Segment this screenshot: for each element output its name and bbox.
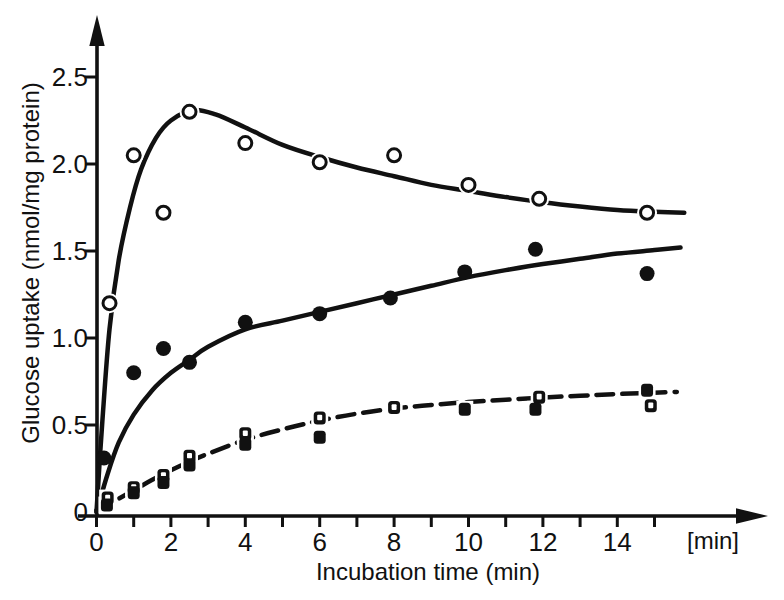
y-tick-label: 0 [74, 497, 88, 527]
open-circle-marker [641, 206, 654, 219]
filled-circle-marker [126, 365, 141, 380]
filled-square-marker [314, 431, 326, 444]
filled-square-marker [184, 459, 196, 472]
open-square-marker-center [243, 430, 248, 436]
x-axis-unit-label: [min] [687, 527, 739, 555]
filled-circle-marker [182, 355, 197, 370]
open-circle-marker [313, 156, 326, 169]
filled-circle-marker [383, 290, 398, 305]
filled-circle-marker [312, 306, 327, 321]
open-square-marker-center [187, 453, 192, 459]
open-circle-marker [103, 297, 116, 310]
filled-square-marker [239, 438, 251, 451]
open-square-marker-center [648, 403, 653, 409]
open-circle-marker [239, 137, 252, 150]
x-tick-label: 10 [454, 527, 483, 557]
x-tick-label: 2 [164, 527, 178, 557]
chart-figure: 0246810121400.51.01.52.02.5 Glucose upta… [0, 0, 784, 600]
y-axis-title: Glucose uptake (nmol/mg protein) [17, 82, 45, 444]
filled-square-marker [157, 476, 169, 489]
filled-circle-marker [96, 451, 111, 466]
y-tick-label: 1.5 [52, 236, 88, 266]
y-tick-label: 1.0 [52, 323, 88, 353]
y-tick-label: 2.5 [52, 62, 88, 92]
filled-square-marker [641, 384, 653, 397]
open-square-marker-center [392, 404, 397, 410]
plot-area: 0246810121400.51.01.52.02.5 [0, 0, 784, 600]
filled-circle-marker [156, 341, 171, 356]
filled-circle-marker [457, 264, 472, 279]
open-circle-marker [157, 206, 170, 219]
x-tick-label: 0 [89, 527, 103, 557]
filled-square-marker [128, 486, 140, 499]
x-tick-label: 14 [603, 527, 632, 557]
open-square-marker-center [317, 415, 322, 421]
x-tick-label: 4 [238, 527, 252, 557]
x-axis-arrow-icon [736, 508, 768, 524]
x-tick-label: 6 [312, 527, 326, 557]
y-axis-arrow-icon [89, 15, 104, 46]
open-square-marker-center [537, 394, 542, 400]
filled-square-marker [101, 499, 113, 512]
y-tick-label: 0.5 [52, 410, 88, 440]
y-tick-label: 2.0 [52, 149, 88, 179]
open-circle-marker [462, 178, 475, 191]
open-circle-marker [183, 105, 196, 118]
filled-circle-marker [238, 315, 253, 330]
x-tick-label: 8 [387, 527, 401, 557]
open-circle-marker [388, 149, 401, 162]
filled-circle-marker [640, 266, 655, 281]
x-axis-title: Incubation time (min) [316, 558, 540, 586]
filled-circle-marker [528, 242, 543, 257]
filled-square-marker [529, 403, 541, 416]
x-tick-label: 12 [528, 527, 557, 557]
filled-square-marker [459, 403, 471, 416]
open-circle-marker [127, 149, 140, 162]
open-circle-marker [533, 192, 546, 205]
